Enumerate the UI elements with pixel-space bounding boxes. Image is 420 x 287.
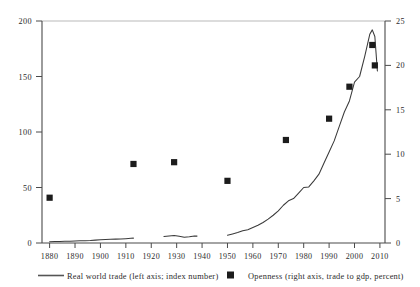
legend-square-swatch xyxy=(227,272,234,279)
x-axis-tick-labels: 1880189019001910192019301940195019601970… xyxy=(41,252,389,261)
x-axis-ticks xyxy=(50,243,380,248)
x-tick-label-1890: 1890 xyxy=(66,252,84,261)
right-tick-25: 25 xyxy=(396,17,405,26)
x-tick-label-1920: 1920 xyxy=(142,252,160,261)
right-tick-15: 15 xyxy=(396,106,405,115)
x-tick-label-1970: 1970 xyxy=(269,252,287,261)
right-axis-tick-labels: 25 20 15 10 5 0 xyxy=(396,17,405,248)
x-tick-label-1910: 1910 xyxy=(117,252,135,261)
left-axis-ticks xyxy=(36,21,42,243)
x-tick-label-1960: 1960 xyxy=(244,252,262,261)
legend-label-real-world-trade: Real world trade (left axis; index numbe… xyxy=(67,272,218,281)
openness-marker-1973 xyxy=(283,137,289,143)
left-axis-tick-labels: 200 150 100 50 0 xyxy=(19,17,32,248)
openness-marker-1880 xyxy=(47,195,53,201)
x-tick-label-1950: 1950 xyxy=(219,252,237,261)
openness-marker-1998 xyxy=(346,84,352,90)
left-tick-150: 150 xyxy=(19,73,32,82)
real-world-trade-line xyxy=(50,30,378,242)
legend-label-openness: Openness (right axis, trade to gdp, perc… xyxy=(248,272,404,281)
openness-marker-2008 xyxy=(372,62,378,68)
x-tick-label-1940: 1940 xyxy=(193,252,211,261)
right-tick-20: 20 xyxy=(396,61,405,70)
x-tick-label-1990: 1990 xyxy=(320,252,338,261)
chart-legend: Real world trade (left axis; index numbe… xyxy=(38,272,404,282)
right-tick-0: 0 xyxy=(396,239,401,248)
openness-markers xyxy=(47,42,378,201)
openness-marker-1913 xyxy=(130,161,136,167)
right-tick-10: 10 xyxy=(396,150,405,159)
right-axis-ticks xyxy=(385,21,391,243)
chart-svg: 200 150 100 50 0 25 20 15 10 5 0 1880189… xyxy=(0,0,420,287)
right-tick-5: 5 xyxy=(396,195,401,204)
left-tick-0: 0 xyxy=(28,239,33,248)
openness-marker-1950 xyxy=(224,178,230,184)
x-tick-label-2010: 2010 xyxy=(371,252,389,261)
openness-marker-2007 xyxy=(369,42,375,48)
openness-marker-1990 xyxy=(326,116,332,122)
x-tick-label-1880: 1880 xyxy=(41,252,59,261)
left-tick-200: 200 xyxy=(19,17,32,26)
x-tick-label-1930: 1930 xyxy=(168,252,186,261)
left-tick-50: 50 xyxy=(23,184,32,193)
chart-figure: 200 150 100 50 0 25 20 15 10 5 0 1880189… xyxy=(0,0,420,287)
left-tick-100: 100 xyxy=(19,128,32,137)
x-tick-label-1980: 1980 xyxy=(295,252,313,261)
x-tick-label-2000: 2000 xyxy=(346,252,364,261)
x-tick-label-1900: 1900 xyxy=(92,252,110,261)
openness-marker-1929 xyxy=(171,159,177,165)
